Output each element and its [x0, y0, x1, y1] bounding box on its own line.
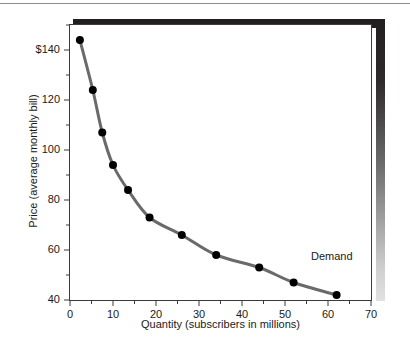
- y-tick-label: 120: [20, 93, 60, 105]
- data-point-marker: [98, 129, 106, 137]
- demand-curve-plot: [0, 0, 410, 341]
- series-layer: [76, 36, 341, 299]
- data-point-marker: [178, 231, 186, 239]
- data-point-marker: [290, 279, 298, 287]
- y-tick-label: 100: [20, 143, 60, 155]
- demand-curve-line: [80, 40, 337, 295]
- y-tick-label: 60: [20, 243, 60, 255]
- data-point-marker: [124, 186, 132, 194]
- data-point-marker: [89, 86, 97, 94]
- data-point-marker: [146, 214, 154, 222]
- x-axis-title: Quantity (subscribers in millions): [69, 318, 372, 330]
- y-tick-label: $140: [20, 43, 60, 55]
- demand-series-label: Demand: [311, 250, 353, 262]
- data-point-marker: [255, 264, 263, 272]
- y-axis-title: Price (average monthly bill): [27, 66, 39, 256]
- data-point-marker: [212, 251, 220, 259]
- y-tick-label: 40: [20, 293, 60, 305]
- data-point-marker: [109, 161, 117, 169]
- chart-screenshot: 406080100120$140 010203040506070 Quantit…: [0, 0, 410, 341]
- y-tick-label: 80: [20, 193, 60, 205]
- data-point-marker: [76, 36, 84, 44]
- data-point-marker: [333, 291, 341, 299]
